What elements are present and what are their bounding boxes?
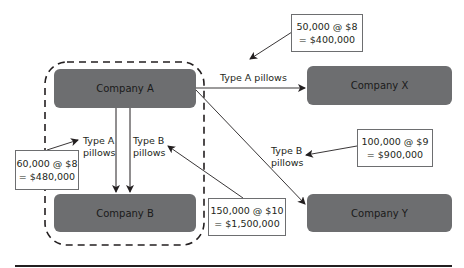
flow-label-line: Type A — [83, 135, 115, 147]
node-label: Company B — [96, 208, 154, 219]
pointer-100000-box — [306, 146, 357, 155]
flow-label-line: pillows — [133, 147, 165, 159]
calc-quantity-price: 60,000 @ $8 — [17, 157, 78, 170]
calc-quantity-price: 100,000 @ $9 — [362, 135, 429, 148]
pointer-50000-box — [250, 32, 292, 59]
flow-label-line: Type B — [271, 145, 303, 157]
flow-label-a-to-y: Type B pillows — [271, 145, 303, 169]
flow-label-a-to-x: Type A pillows — [220, 72, 287, 84]
flow-label-a-to-b-type-b: Type B pillows — [133, 135, 165, 159]
flow-label-line: pillows — [271, 157, 303, 169]
calc-box-a-to-b-type-a: 60,000 @ $8 = $480,000 — [15, 150, 79, 190]
node-label: Company X — [351, 80, 409, 91]
calc-quantity-price: 50,000 @ $8 — [297, 20, 358, 33]
calc-total: = $1,500,000 — [214, 217, 279, 230]
diagram-canvas: Company A Company B Company X Company Y … — [0, 0, 464, 268]
calc-quantity-price: 150,000 @ $10 — [211, 204, 284, 217]
node-company-y: Company Y — [307, 194, 452, 232]
calc-box-a-to-b-type-b: 150,000 @ $10 = $1,500,000 — [208, 198, 286, 236]
calc-total: = $480,000 — [19, 170, 75, 183]
pointer-150000-box — [168, 146, 243, 198]
node-company-x: Company X — [307, 66, 452, 105]
flow-label-line: Type B — [133, 135, 165, 147]
node-company-a: Company A — [54, 69, 196, 108]
flow-label-line: pillows — [83, 147, 115, 159]
flow-label-a-to-b-type-a: Type A pillows — [83, 135, 115, 159]
bottom-rule-divider — [15, 265, 452, 267]
calc-total: = $900,000 — [367, 148, 423, 161]
node-label: Company Y — [351, 208, 408, 219]
calc-box-a-to-x: 50,000 @ $8 = $400,000 — [291, 14, 363, 52]
node-company-b: Company B — [54, 194, 196, 232]
pointer-60000-box — [47, 140, 78, 150]
calc-box-a-to-y: 100,000 @ $9 = $900,000 — [357, 129, 433, 167]
calc-total: = $400,000 — [299, 33, 355, 46]
node-label: Company A — [96, 83, 154, 94]
